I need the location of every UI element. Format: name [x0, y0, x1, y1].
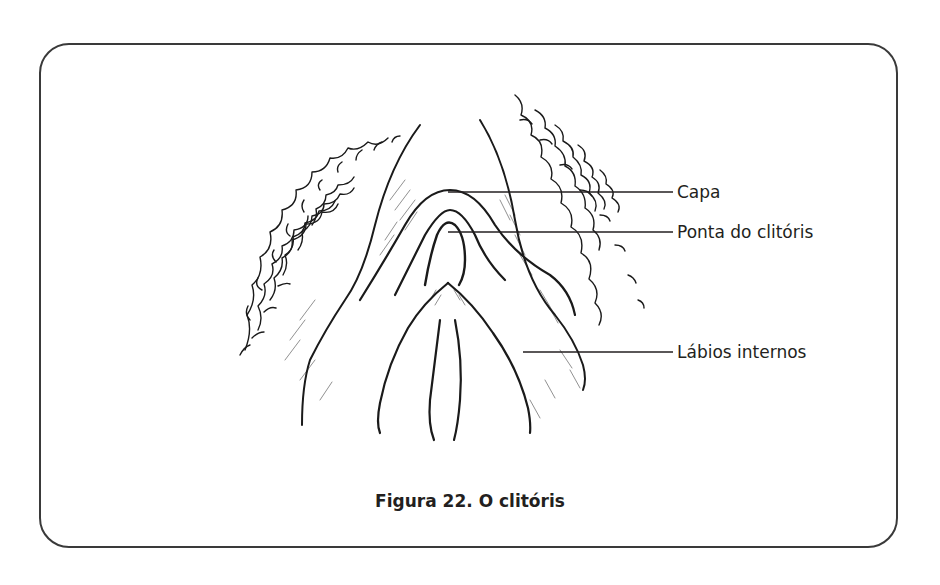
leader-lines: [448, 192, 673, 352]
hood: [360, 190, 575, 315]
hair-right: [515, 95, 644, 325]
anatomical-illustration: [230, 85, 690, 460]
outer-contours: [302, 120, 585, 425]
inner-labia: [378, 283, 530, 440]
label-labios-internos: Lábios internos: [677, 342, 806, 362]
label-ponta-do-clitoris: Ponta do clitóris: [677, 222, 813, 242]
hair-left: [240, 136, 400, 355]
label-capa: Capa: [677, 182, 721, 202]
figure-caption: Figura 22. O clitóris: [0, 491, 940, 511]
